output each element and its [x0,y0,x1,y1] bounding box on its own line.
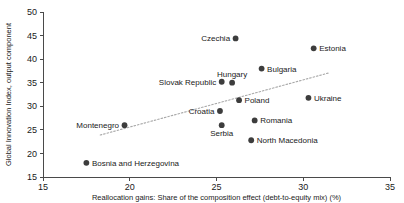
data-point-label: Romania [260,116,293,125]
scatter-chart: 15202530354045501520253035Global Innovat… [0,0,404,203]
data-point-label: Estonia [319,44,346,53]
data-point[interactable] [83,160,89,166]
data-point-label: Croatia [189,107,215,116]
y-tick-label: 15 [27,172,37,182]
y-tick-label: 40 [27,54,37,64]
data-point-label: North Macedonia [257,136,318,145]
data-point-label: Serbia [210,129,234,138]
data-point[interactable] [233,36,239,42]
data-point[interactable] [217,108,223,114]
data-point[interactable] [259,66,265,72]
data-point[interactable] [122,122,128,128]
x-tick-label: 30 [298,182,308,192]
data-point[interactable] [236,97,242,103]
y-tick-label: 20 [27,149,37,159]
data-point-label: Czechia [201,34,230,43]
y-axis-title: Global Innovation Index, output componen… [4,22,13,166]
data-point[interactable] [229,80,235,86]
x-tick-label: 25 [211,182,221,192]
chart-svg: 15202530354045501520253035Global Innovat… [0,0,404,203]
x-tick-label: 15 [38,182,48,192]
data-point[interactable] [252,118,258,124]
y-tick-label: 45 [27,31,37,41]
data-point-label: Slovak Republic [159,78,216,87]
data-point-label: Bosnia and Herzegovina [92,159,180,168]
data-point[interactable] [248,137,254,143]
y-tick-label: 50 [27,7,37,17]
data-point-label: Poland [245,96,270,105]
y-tick-label: 25 [27,125,37,135]
data-point[interactable] [306,95,312,101]
y-tick-label: 30 [27,101,37,111]
data-point-label: Bulgaria [267,65,297,74]
data-point[interactable] [311,45,317,51]
x-axis-title: Reallocation gains: Share of the composi… [92,193,342,202]
data-point-label: Montenegro [76,121,119,130]
x-tick-label: 20 [125,182,135,192]
y-tick-label: 35 [27,78,37,88]
data-point[interactable] [219,79,225,85]
x-tick-label: 35 [385,182,395,192]
data-point-label: Ukraine [314,94,342,103]
data-point[interactable] [219,122,225,128]
data-point-label: Hungary [217,70,247,79]
